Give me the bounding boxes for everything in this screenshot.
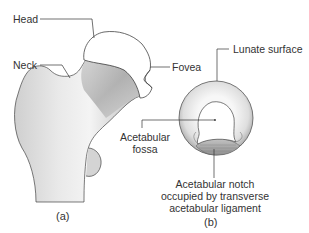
lunate-leader-line xyxy=(217,49,229,81)
lesser-trochanter xyxy=(86,148,101,176)
label-lunate-surface: Lunate surface xyxy=(233,43,302,55)
anatomy-figure: Head Neck Fovea (a) Lunate surface Aceta… xyxy=(0,0,309,233)
label-fossa-line1: Acetabular xyxy=(116,131,174,143)
label-acetabular-notch: Acetabular notch occupied by transverse … xyxy=(154,178,276,214)
caption-panel-b: (b) xyxy=(204,216,217,228)
head-leader-line xyxy=(40,19,94,38)
label-fovea: Fovea xyxy=(172,61,201,73)
label-acetabular-fossa: Acetabular fossa xyxy=(116,131,174,155)
label-notch-line3: acetabular ligament xyxy=(154,202,276,214)
label-notch-line1: Acetabular notch xyxy=(154,178,276,190)
label-fossa-line2: fossa xyxy=(116,143,174,155)
label-neck: Neck xyxy=(13,59,37,71)
label-notch-line2: occupied by transverse xyxy=(154,190,276,202)
label-head: Head xyxy=(13,13,38,25)
caption-panel-a: (a) xyxy=(56,210,69,222)
femur-illustration xyxy=(15,19,170,202)
